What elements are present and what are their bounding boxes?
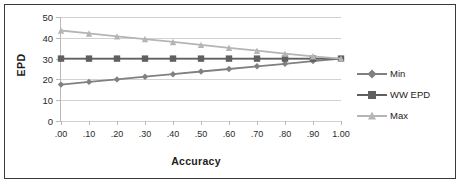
y-tick-label: 10	[42, 95, 53, 106]
y-tick-label: 50	[42, 12, 53, 23]
legend-item-min[interactable]: Min	[357, 63, 430, 84]
x-tick-label: .70	[251, 129, 264, 139]
legend-marker-square	[368, 91, 376, 99]
data-point	[198, 68, 204, 74]
data-point	[254, 55, 260, 61]
legend-key-icon	[357, 89, 387, 101]
y-tick-label: 40	[42, 32, 53, 43]
data-point	[114, 55, 120, 61]
x-tick-label: .60	[223, 129, 236, 139]
x-tick-label: .40	[167, 129, 180, 139]
legend-marker-diamond	[367, 69, 376, 78]
y-tick-label: 0	[48, 116, 53, 127]
data-point	[226, 55, 232, 61]
data-point	[198, 55, 204, 61]
x-tick-label: .80	[279, 129, 292, 139]
data-point	[226, 66, 232, 72]
data-point	[86, 55, 92, 61]
legend-label: WW EPD	[390, 89, 430, 100]
data-point	[142, 73, 148, 79]
x-tick-label: .10	[83, 129, 96, 139]
data-point	[114, 76, 120, 82]
y-tick-label: 30	[42, 53, 53, 64]
y-axis-title: EPD	[15, 35, 27, 95]
x-axis-title: Accuracy	[51, 155, 341, 167]
legend-item-ww-epd[interactable]: WW EPD	[357, 84, 430, 105]
y-tick-label: 20	[42, 74, 53, 85]
x-tick	[341, 121, 342, 125]
data-point	[170, 71, 176, 77]
x-tick-label: .20	[111, 129, 124, 139]
x-tick-label: 1.00	[332, 129, 350, 139]
data-point	[86, 79, 92, 85]
legend-label: Min	[390, 68, 405, 79]
data-point	[254, 63, 260, 69]
data-point	[142, 55, 148, 61]
x-tick-label: .30	[139, 129, 152, 139]
series-plot	[61, 17, 341, 122]
data-point	[58, 55, 64, 61]
legend-key-icon	[357, 110, 387, 122]
x-tick-label: .90	[307, 129, 320, 139]
legend-item-max[interactable]: Max	[357, 105, 430, 126]
x-tick-label: .00	[55, 129, 68, 139]
x-tick-label: .50	[195, 129, 208, 139]
chart-canvas: EPD Accuracy 01020304050 .00.10.20.30.40…	[5, 5, 455, 178]
chart-legend: MinWW EPDMax	[357, 63, 430, 126]
plot-area: 01020304050 .00.10.20.30.40.50.60.70.80.…	[61, 17, 341, 121]
data-point	[170, 55, 176, 61]
series-ww-epd	[58, 55, 344, 61]
data-point	[58, 81, 64, 87]
legend-label: Max	[390, 110, 408, 121]
legend-key-icon	[357, 68, 387, 80]
chart-frame: EPD Accuracy 01020304050 .00.10.20.30.40…	[4, 4, 456, 179]
